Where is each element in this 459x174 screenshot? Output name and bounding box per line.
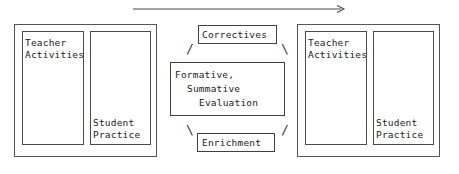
connector-bottom-left: \ [186,123,194,136]
teacher-activities-line2-left: Activities [25,49,84,60]
connector-bottom-right: / [281,123,289,136]
connector-top-left: / [186,42,194,55]
student-practice-line1-left: Student [93,117,134,128]
teacher-activities-label-left: TeacherActivities [25,37,84,61]
enrichment-label: Enrichment [202,137,261,149]
teacher-activities-line1-left: Teacher [25,37,66,48]
evaluation-label-line1: Formative, [175,69,234,81]
evaluation-label-line3: Evaluation [199,97,258,109]
student-practice-line1-right: Student [376,117,417,128]
mastery-learning-diagram: TeacherActivities StudentPractice Correc… [0,0,459,174]
connector-top-right: \ [281,42,289,55]
student-practice-label-left: StudentPractice [93,117,140,141]
student-practice-label-right: StudentPractice [376,117,423,141]
correctives-label: Correctives [202,29,267,41]
student-practice-line2-right: Practice [376,129,423,140]
evaluation-label-line2: Summative [187,83,240,95]
teacher-activities-line1-right: Teacher [308,37,349,48]
teacher-activities-line2-right: Activities [308,49,367,60]
teacher-activities-label-right: TeacherActivities [308,37,367,61]
student-practice-line2-left: Practice [93,129,140,140]
